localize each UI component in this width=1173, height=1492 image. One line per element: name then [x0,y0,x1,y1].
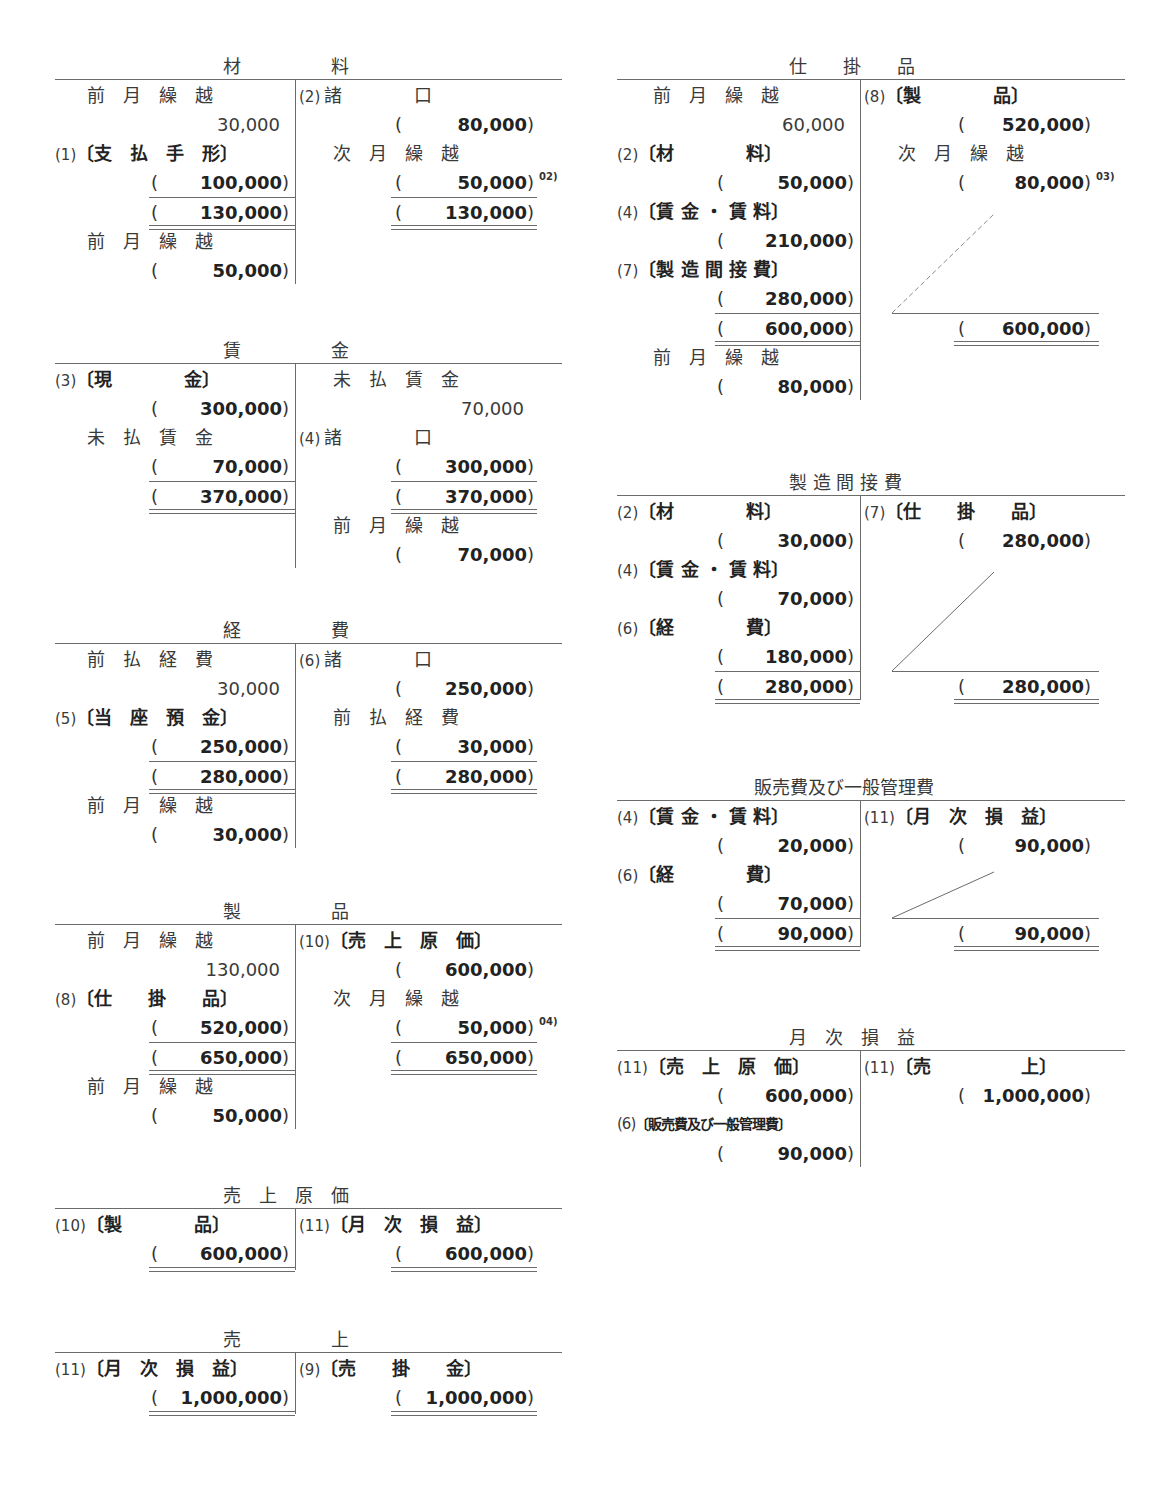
t-account-top-line [617,800,1125,801]
entry-amount: 600,000 [445,1243,527,1264]
entry-label: 〔売 上 原 価〕 [330,930,492,951]
t-account-divider [295,1208,296,1270]
entry-amount: 600,000 [445,959,527,980]
entry-label: 〔月 次 損 益〕 [86,1358,248,1379]
total-amount: 280,000 [765,676,847,697]
credit-amount: (520,000) [864,110,1125,139]
credit-amount: (80,000) [299,110,562,139]
transaction-number: (2) [617,146,638,164]
credit-entry: (6)諸 口 [299,645,562,674]
transaction-number: (6) [617,867,638,885]
transaction-number: (6) [617,620,638,638]
credit-entry: (4)諸 口 [299,423,562,452]
account-uriage-genka: 売 上 原 価 (10)〔製 品〕 (600,000) (11)〔月 次 損 益… [55,1181,562,1281]
entry-label: 〔売 上〕 [895,1056,1057,1077]
debit-entry: (11)〔売 上 原 価〕 [617,1052,860,1081]
credit-entry: 次 月 繰 越 [299,139,562,168]
entry-amount: 30,000 [217,674,280,703]
credit-total: (280,000) [299,762,562,791]
transaction-number: (11) [299,1217,330,1235]
entry-amount: 180,000 [765,646,847,667]
credit-entry: 前 払 経 費 [299,703,562,732]
total-amount: 130,000 [445,202,527,223]
transaction-number: (6) [617,1115,635,1133]
debit-amount: (80,000) [617,372,860,401]
debit-amount: (30,000) [617,526,860,555]
debit-entry: 前 月 繰 越 [55,227,295,256]
entry-amount: 80,000 [458,114,527,135]
debit-amount: (20,000) [617,831,860,860]
entry-amount: 50,000 [213,260,282,281]
total-double-line [954,341,1099,346]
transaction-number: (10) [299,933,330,951]
credit-entry: (11)〔月 次 損 益〕 [864,802,1125,831]
entry-amount: 520,000 [200,1017,282,1038]
entry-label: 〔販売費及び一般管理費〕 [635,1116,791,1132]
entry-label: 〔製 品〕 [86,1214,230,1235]
entry-label: 〔賃 金 ・ 賃 料〕 [638,806,789,827]
account-title: 月 次 損 益 [789,1023,915,1049]
entry-amount: 70,000 [778,588,847,609]
debit-entry: 未 払 賃 金 [55,423,295,452]
t-account-top-line [55,643,562,644]
transaction-number: (7) [864,504,885,522]
credit-amount: (600,000) [299,955,562,984]
account-title: 製 品 [223,897,349,923]
entry-label: 〔製 造 間 接 費〕 [638,259,789,280]
entry-label: 前 月 繰 越 [87,1072,213,1101]
entry-label: 〔売 掛 金〕 [320,1358,482,1379]
account-hanbaihi: 販売費及び一般管理費 (4)〔賃 金 ・ 賃 料〕 (20,000) (6)〔経… [617,773,1125,953]
credit-entry: (11)〔売 上〕 [864,1052,1125,1081]
debit-entry: (3)〔現 金〕 [55,365,295,394]
debit-entry: (4)〔賃 金 ・ 賃 料〕 [617,197,860,226]
total-amount: 90,000 [778,923,847,944]
debit-entry: 前 月 繰 越 [55,926,295,955]
debit-entry: 前 月 繰 越 [617,343,860,372]
entry-amount: 80,000 [1015,172,1084,193]
total-double-line [391,225,537,230]
t-account-divider [295,363,296,568]
debit-amount: 30,000 [55,674,295,703]
entry-amount: 50,000 [458,172,527,193]
t-account-divider [295,79,296,284]
debit-amount: (50,000) [617,168,860,197]
entry-amount: 70,000 [778,893,847,914]
entry-amount: 280,000 [1002,530,1084,551]
debit-entry: (11)〔月 次 損 益〕 [55,1354,295,1383]
t-account-divider [860,495,861,700]
t-account-top-line [55,924,562,925]
debit-entry: 前 月 繰 越 [55,81,295,110]
debit-entry: 前 払 経 費 [55,645,295,674]
credit-amount: (70,000) [299,540,562,569]
transaction-number: (8) [864,88,885,106]
entry-amount: 1,000,000 [983,1085,1084,1106]
debit-amount: 30,000 [55,110,295,139]
entry-amount: 30,000 [778,530,847,551]
transaction-number: (2) [617,504,638,522]
transaction-number: (3) [55,372,76,390]
footnote-marker: 02) [539,162,558,191]
account-title: 製 造 間 接 費 [789,468,902,494]
total-double-line [391,1267,537,1272]
debit-entry: (1)〔支 払 手 形〕 [55,139,295,168]
account-shikakehin: 仕 掛 品 前 月 繰 越 60,000 (2)〔材 料〕 (50,000) (… [617,52,1125,412]
total-double-line [391,1411,537,1416]
entry-label: 〔仕 掛 品〕 [76,988,238,1009]
credit-total: (600,000) [864,314,1125,343]
t-account-divider [295,643,296,848]
closing-diagonal-line [892,212,1002,313]
total-amount: 280,000 [200,766,282,787]
credit-entry: (2)諸 口 [299,81,562,110]
entry-label: 前 月 繰 越 [87,81,213,110]
debit-entry: (7)〔製 造 間 接 費〕 [617,255,860,284]
total-amount: 280,000 [445,766,527,787]
total-amount: 90,000 [1015,923,1084,944]
footnote-marker: 03) [1096,162,1115,191]
entry-amount: 90,000 [778,1143,847,1164]
credit-total: (280,000) [864,672,1125,701]
t-account-divider [860,800,861,947]
t-account-divider [295,924,296,1129]
account-title: 材 料 [223,52,349,78]
credit-total: (90,000) [864,919,1125,948]
credit-amount: (1,000,000) [864,1081,1125,1110]
